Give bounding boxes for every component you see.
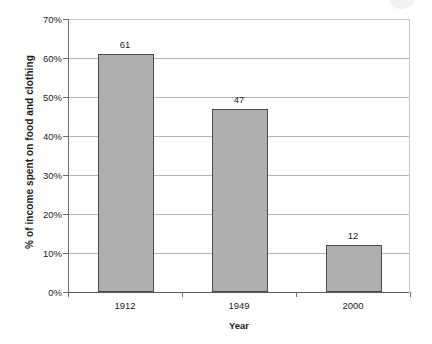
y-axis-tick-label: 40% — [28, 131, 62, 142]
y-axis-tick-label: 60% — [28, 53, 62, 64]
bar-value-label: 47 — [211, 94, 267, 105]
y-axis-tick-mark — [63, 19, 68, 20]
y-axis-tick-mark — [63, 97, 68, 98]
plot-area — [68, 19, 410, 292]
y-axis-tick-label: 50% — [28, 92, 62, 103]
bar — [326, 245, 382, 292]
x-axis-tick-label: 1949 — [182, 300, 296, 311]
y-axis-tick-mark — [63, 175, 68, 176]
bar-value-label: 12 — [325, 230, 381, 241]
gridline — [69, 292, 409, 293]
y-axis-tick-label: 30% — [28, 170, 62, 181]
x-axis-title: Year — [68, 320, 410, 331]
bar-value-label: 61 — [97, 39, 153, 50]
bar-chart-figure: % of income spent on food and clothing Y… — [0, 0, 432, 344]
x-axis-tick-label: 1912 — [68, 300, 182, 311]
x-axis-tick-mark — [296, 292, 297, 297]
y-axis-tick-label: 0% — [28, 287, 62, 298]
y-axis-tick-label: 20% — [28, 209, 62, 220]
y-axis-tick-mark — [63, 136, 68, 137]
bar — [212, 109, 268, 292]
gridline — [69, 19, 409, 20]
x-axis-tick-mark — [182, 292, 183, 297]
bar — [98, 54, 154, 292]
y-axis-tick-mark — [63, 253, 68, 254]
y-axis-tick-mark — [63, 58, 68, 59]
scan-artifact — [390, 0, 414, 9]
y-axis-tick-label: 70% — [28, 14, 62, 25]
x-axis-tick-mark — [68, 292, 69, 297]
y-axis-tick-label: 10% — [28, 248, 62, 259]
x-axis-tick-mark — [410, 292, 411, 297]
y-axis-tick-mark — [63, 214, 68, 215]
x-axis-tick-label: 2000 — [296, 300, 410, 311]
